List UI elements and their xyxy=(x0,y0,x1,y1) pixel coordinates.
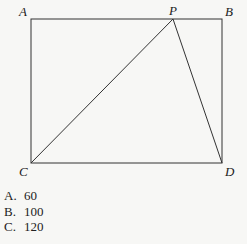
choice-letter: A. xyxy=(4,188,24,204)
label-a: A xyxy=(18,4,27,19)
choice-b[interactable]: B.100 xyxy=(4,204,44,220)
choice-letter: B. xyxy=(4,204,24,220)
rectangle-abdc xyxy=(31,19,222,163)
label-c: C xyxy=(19,164,28,179)
choice-value: 60 xyxy=(24,188,37,204)
segment-cp xyxy=(31,19,173,163)
choice-value: 100 xyxy=(24,204,44,220)
label-b: B xyxy=(225,4,233,19)
choice-value: 120 xyxy=(24,219,44,235)
choice-letter: C. xyxy=(4,219,24,235)
rectangle-triangle-diagram: A P B C D xyxy=(0,0,247,180)
answer-choices: A.60 B.100 C.120 xyxy=(4,188,44,235)
choice-a[interactable]: A.60 xyxy=(4,188,44,204)
label-d: D xyxy=(224,164,235,179)
choice-c[interactable]: C.120 xyxy=(4,219,44,235)
label-p: P xyxy=(168,3,177,18)
segment-pd xyxy=(173,19,222,163)
